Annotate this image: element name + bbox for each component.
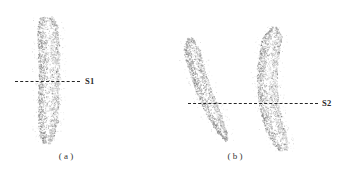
section-line-s2 <box>188 103 318 104</box>
section-line-s1 <box>15 81 80 82</box>
cloud-crescent-b-right <box>251 26 294 151</box>
point-cloud-b <box>170 0 347 176</box>
figure-panel-b: S2 ( b ) <box>170 0 347 176</box>
panel-caption-a: ( a ) <box>40 152 92 161</box>
cloud-crescent-b-left <box>180 37 234 142</box>
section-label-s2: S2 <box>322 99 331 108</box>
section-label-s1: S1 <box>85 77 94 86</box>
figure-panel-a: S1 ( a ) <box>0 0 170 176</box>
point-cloud-a <box>0 0 170 176</box>
panel-caption-b: ( b ) <box>209 152 261 161</box>
figure-root: S1 ( a ) S2 ( b ) <box>0 0 347 176</box>
